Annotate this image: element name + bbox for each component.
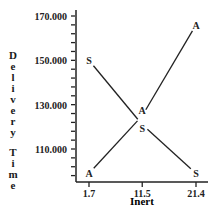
y-tick-label: 130.000 [35, 100, 68, 111]
x-tick-label: 1.7 [83, 188, 96, 199]
marker-a: A [139, 105, 147, 116]
series-s: SSS [86, 55, 199, 179]
y-axis-label: Delivery Time [6, 50, 20, 191]
marker-a: A [85, 168, 93, 179]
marker-s: S [193, 168, 199, 179]
series-layer: AAASSS [85, 20, 200, 180]
marker-a: A [192, 20, 200, 31]
marker-s: S [139, 123, 145, 134]
y-axis: 170.000150.000130.000110.000 [35, 10, 77, 182]
line-chart: 170.000150.000130.000110.000 1.711.521.4… [0, 0, 218, 208]
y-tick-label: 170.000 [35, 11, 68, 22]
marker-s: S [86, 55, 92, 66]
series-a: AAA [85, 20, 200, 180]
x-tick-label: 21.4 [187, 188, 205, 199]
y-tick-label: 110.000 [35, 144, 67, 155]
x-axis-label: Inert [130, 195, 154, 207]
y-label-letter: e [11, 180, 16, 191]
y-label-letter: y [10, 127, 16, 138]
y-tick-label: 150.000 [35, 55, 68, 66]
